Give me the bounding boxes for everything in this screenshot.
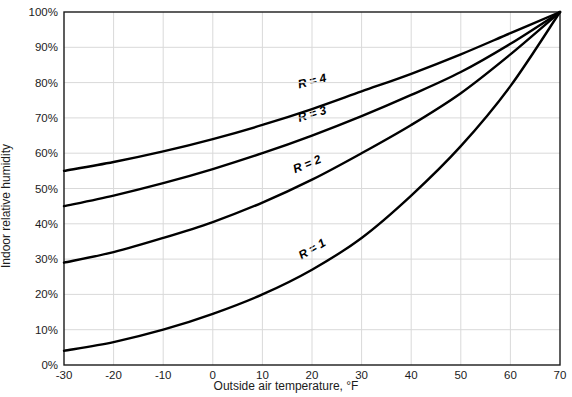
chart-figure: Indoor relative humidity Outside air tem… bbox=[0, 0, 572, 397]
plot-canvas bbox=[0, 0, 572, 397]
